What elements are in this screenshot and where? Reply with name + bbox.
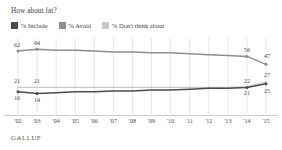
x-axis-tick-label: '04: [53, 118, 60, 124]
data-value-label: 21: [34, 77, 40, 84]
data-value-label: 21: [244, 89, 250, 96]
legend-label-dont-think-about: % Don't think about: [112, 22, 164, 29]
legend-label-avoid: % Avoid: [69, 22, 91, 29]
x-axis-tick-label: '09: [148, 118, 155, 124]
x-axis: '02'03'04'05'06'07'08'09'10'11'12'13'14'…: [0, 118, 282, 132]
data-value-label: 56: [244, 46, 250, 53]
x-axis-tick-label: '13: [224, 118, 231, 124]
series-line: [18, 84, 266, 94]
legend-swatch-dont-think-about: [102, 22, 109, 29]
source-label: GALLUP: [11, 134, 41, 141]
x-axis-tick-label: '08: [129, 118, 136, 124]
x-axis-tick-label: '02: [14, 118, 21, 124]
data-point-marker: [17, 50, 20, 53]
x-axis-tick-label: '12: [205, 118, 212, 124]
x-axis-tick-label: '03: [33, 118, 40, 124]
line-chart-svg: 212122276264564716142125: [0, 36, 282, 118]
data-value-label: 27: [264, 71, 270, 78]
legend-item-avoid: % Avoid: [59, 22, 91, 29]
x-axis-tick-label: '06: [91, 118, 98, 124]
chart-figure: How about fat? % Include % Avoid % Don't…: [0, 0, 282, 150]
data-value-label: 25: [264, 87, 270, 94]
legend-item-dont-think-about: % Don't think about: [102, 22, 164, 29]
data-value-label: 64: [34, 39, 40, 46]
x-axis-tick-label: '07: [110, 118, 117, 124]
data-value-label: 22: [244, 77, 250, 84]
x-axis-tick-label: '14: [243, 118, 250, 124]
x-axis-tick-label: '15: [262, 118, 269, 124]
data-point-marker: [265, 63, 268, 66]
data-point-marker: [36, 48, 39, 51]
series-line: [18, 49, 266, 64]
legend-item-include: % Include: [11, 22, 48, 29]
data-point-marker: [245, 55, 248, 58]
legend-swatch-include: [11, 22, 18, 29]
legend-label-include: % Include: [21, 22, 48, 29]
data-value-label: 14: [34, 96, 40, 103]
data-value-label: 62: [14, 41, 20, 48]
series-line: [18, 82, 266, 87]
data-point-marker: [265, 82, 268, 85]
chart-title: How about fat?: [11, 7, 57, 15]
data-value-label: 21: [14, 77, 20, 84]
plot-area: 212122276264564716142125: [0, 36, 282, 118]
data-value-label: 16: [14, 94, 20, 101]
legend-swatch-avoid: [59, 22, 66, 29]
data-value-label: 47: [264, 52, 270, 59]
x-axis-tick-label: '05: [72, 118, 79, 124]
chart-legend: % Include % Avoid % Don't think about: [11, 22, 164, 29]
x-axis-tick-label: '10: [167, 118, 174, 124]
x-axis-tick-label: '11: [186, 118, 193, 124]
